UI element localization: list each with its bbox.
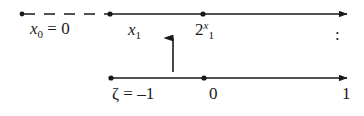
label-two-pow-x1-base: 2 [195, 20, 204, 39]
bottom-axis-point-zeta [108, 75, 113, 80]
label-zero: 0 [209, 85, 218, 102]
label-two-pow-x1: 2x1 [195, 20, 214, 41]
number-line-figure: x0 = 0 x1 2x1 : ζ = –1 0 1 [0, 0, 364, 116]
label-zeta-equals-minus-one: ζ = –1 [112, 85, 154, 102]
label-x0-value: 0 [61, 19, 70, 38]
bottom-axis-point-zero [201, 75, 206, 80]
top-axis-point-2x1 [200, 11, 205, 16]
label-x1: x1 [128, 21, 141, 41]
axes-graphic [0, 0, 364, 116]
top-axis-point-x1 [107, 11, 112, 16]
label-x1-subscript: 1 [136, 29, 142, 41]
label-x0-base: x [30, 19, 38, 38]
label-colon: : [335, 26, 340, 43]
top-axis-point-x0 [20, 12, 25, 17]
label-zeta-equals-sign: = [123, 84, 133, 103]
label-x0-equals-sign: = [47, 19, 57, 38]
label-two-pow-x1-subscript: 1 [208, 29, 214, 41]
label-zeta-base: ζ [112, 84, 119, 103]
label-one: 1 [342, 85, 351, 102]
label-zeta-value: –1 [137, 84, 154, 103]
label-x0-equals-zero: x0 = 0 [30, 20, 70, 40]
label-x1-base: x [128, 20, 136, 39]
label-x0-subscript: 0 [38, 28, 44, 40]
